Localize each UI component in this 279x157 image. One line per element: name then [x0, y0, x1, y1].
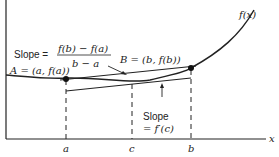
point-b-label: B = (b, f(b))	[119, 54, 181, 65]
x-axis-label: x	[269, 133, 275, 144]
curve-label: f(x)	[238, 9, 256, 20]
tangent-arrowhead-icon	[160, 83, 164, 88]
tangent-slope-line2: = f′(c)	[143, 123, 174, 134]
tick-label-a: a	[63, 143, 69, 154]
tangent-slope-line1: Slope	[143, 111, 169, 122]
tangent-line	[66, 78, 191, 91]
secant-slope-prefix: Slope =	[14, 49, 48, 60]
point-a	[63, 76, 69, 82]
point-b	[188, 65, 194, 71]
mvt-diagram: x f(x) A = (a, f(a)) B = (b, f(b)) Slope…	[0, 0, 279, 157]
tick-label-c: c	[129, 143, 135, 154]
point-a-label: A = (a, f(a))	[9, 65, 70, 76]
secant-slope-numerator: f(b) − f(a)	[57, 43, 108, 54]
secant-slope-denominator: b − a	[72, 58, 99, 69]
tick-label-b: b	[188, 143, 194, 154]
